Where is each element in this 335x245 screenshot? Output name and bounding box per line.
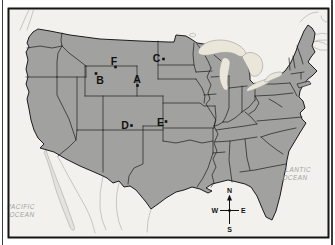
atlantic-ocean-line2: OCEAN	[282, 174, 307, 181]
pacific-ocean-label: PACIFIC OCEAN	[7, 203, 38, 218]
point-label-a: A	[133, 73, 141, 85]
compass-north-label: N	[227, 187, 232, 194]
point-dot-a	[136, 84, 139, 87]
atlantic-ocean-line1: ATLANTIC	[276, 166, 311, 173]
point-dot-c	[162, 58, 165, 61]
point-label-d: D	[121, 119, 129, 131]
compass-west-label: W	[211, 207, 218, 214]
pacific-ocean-line1: PACIFIC	[7, 203, 35, 210]
pacific-ocean-line2: OCEAN	[9, 211, 34, 218]
compass-center-dot	[228, 209, 230, 211]
point-dot-e	[165, 120, 168, 123]
point-dot-d	[130, 124, 133, 127]
point-label-e: E	[157, 116, 164, 128]
point-dot-f	[114, 66, 117, 69]
point-label-f: F	[111, 55, 118, 67]
compass-south-label: S	[227, 226, 232, 233]
point-label-b: B	[96, 74, 104, 86]
compass-east-label: E	[241, 207, 246, 214]
figure-page: F C B A D E PACIFIC OCEAN ATLANTIC OCEAN	[0, 0, 335, 245]
point-label-c: C	[153, 52, 161, 64]
us-map: F C B A D E PACIFIC OCEAN ATLANTIC OCEAN	[0, 0, 335, 245]
point-dot-b	[95, 72, 98, 75]
